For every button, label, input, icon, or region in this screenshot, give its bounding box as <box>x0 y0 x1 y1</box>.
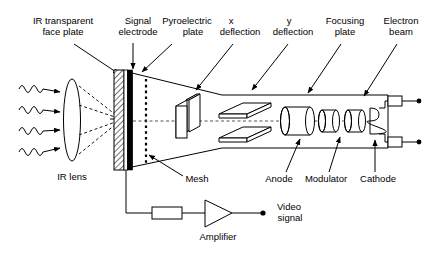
modulator-right-face <box>333 110 340 132</box>
label-amplifier: Amplifier <box>200 231 237 242</box>
x-plate-rear-body <box>189 94 200 132</box>
signal-electrode-layer <box>124 70 128 170</box>
terminal-lower-dot <box>417 140 422 145</box>
label-ir-face-plate-line1: IR transparent <box>33 15 94 26</box>
label-electron-beam-line1: Electron <box>384 15 419 26</box>
terminal-lower-box <box>388 137 402 147</box>
ir-transparent-face-plate-layer <box>114 70 124 170</box>
anode-cylinder <box>281 107 315 135</box>
terminal-upper-box <box>388 96 402 106</box>
x-plate-front-face <box>176 106 187 138</box>
label-focusing-plate-line2: plate <box>335 26 356 37</box>
terminal-upper-dot <box>417 99 422 104</box>
label-video-line2: signal <box>278 212 303 223</box>
label-mesh: Mesh <box>185 173 208 184</box>
y-plate-upper-edge <box>219 114 247 118</box>
label-x-deflection-line1: x <box>229 15 234 26</box>
label-ir-face-plate-line2: face plate <box>42 26 83 37</box>
anode-right-face <box>306 107 315 135</box>
vidicon-tube-diagram: IR transparent face plate Signal electro… <box>0 0 434 254</box>
focusing-right-face <box>359 110 366 132</box>
pyroelectric-plate-layer <box>128 70 133 170</box>
label-ir-lens: IR lens <box>57 171 87 182</box>
label-y-deflection-line1: y <box>287 15 292 26</box>
label-modulator: Modulator <box>305 173 347 184</box>
label-focusing-plate-line1: Focusing <box>326 15 365 26</box>
label-electron-beam-line2: beam <box>389 26 413 37</box>
diagram-root: IR transparent face plate Signal electro… <box>0 0 434 254</box>
label-x-deflection-line2: deflection <box>220 26 261 37</box>
label-cathode: Cathode <box>360 173 396 184</box>
label-y-deflection-line2: deflection <box>273 26 314 37</box>
focusing-electrode-cylinder <box>345 110 366 132</box>
y-plate-lower-edge <box>219 138 247 142</box>
label-pyroelectric-plate-line1: Pyroelectric <box>162 15 212 26</box>
modulator-cylinder <box>319 110 340 132</box>
video-output-terminal-dot <box>260 210 265 215</box>
label-signal-electrode-line2: electrode <box>118 26 157 37</box>
face-plate-assembly <box>114 70 133 170</box>
label-pyroelectric-plate-line2: plate <box>183 26 204 37</box>
load-resistor <box>152 207 182 219</box>
label-signal-electrode-line1: Signal <box>125 15 151 26</box>
label-video-line1: Video <box>277 201 301 212</box>
label-anode: Anode <box>265 173 292 184</box>
